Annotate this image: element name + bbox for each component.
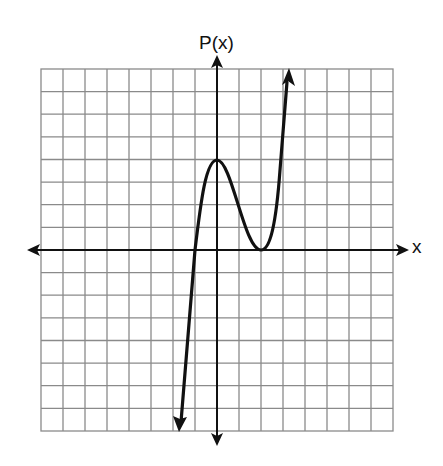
coordinate-plane <box>0 0 443 466</box>
y-axis-label: P(x) <box>199 33 234 52</box>
x-axis-label: x <box>412 237 422 256</box>
